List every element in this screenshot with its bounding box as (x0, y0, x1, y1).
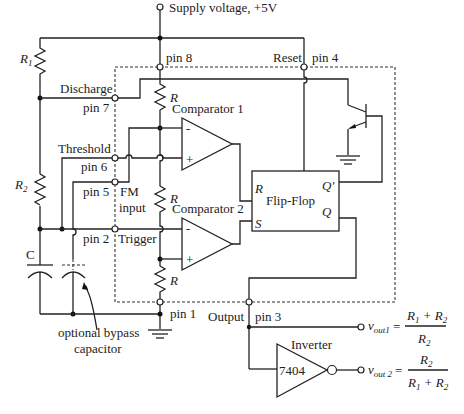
bypass-pointer (86, 286, 97, 330)
comp1-minus: - (186, 121, 190, 136)
svg-text:R1 + R2: R1 + R2 (407, 375, 449, 392)
vout1-equation: vout1 = R1 + R2 R2 (368, 308, 448, 348)
vout2-equation: vout 2 = R2 R1 + R2 (368, 352, 449, 392)
fm-label: FM (120, 184, 139, 199)
comp1-plus: + (186, 152, 193, 167)
comp2-plus: + (186, 252, 193, 267)
resistor-label: R (169, 273, 178, 288)
resistor-divider-chain (155, 70, 165, 299)
pin6-label: pin 6 (81, 159, 108, 174)
supply-label: Supply voltage, +5V (169, 0, 278, 15)
pin8-label: pin 8 (166, 50, 192, 65)
circuit-diagram: Supply voltage, +5V pin 8 Reset pin 4 R1… (0, 0, 464, 414)
reset-label: Reset (273, 50, 302, 65)
pin2-label: pin 2 (83, 231, 109, 246)
capacitor-label: C (26, 247, 35, 262)
inverter-bubble (328, 366, 337, 375)
comp2-minus: - (186, 221, 190, 236)
fm-input-label: input (119, 200, 146, 215)
output-label: Output (208, 309, 245, 324)
svg-text:vout 2: vout 2 (368, 362, 393, 379)
svg-text:R2: R2 (417, 331, 431, 348)
pin4-terminal (301, 64, 307, 70)
transistor-collector (348, 105, 366, 112)
comp2-to-s-wire (232, 221, 252, 244)
r2-label: R2 (14, 177, 28, 194)
svg-text:R1 + R2: R1 + R2 (406, 308, 448, 325)
flipflop-q: Q (322, 204, 332, 219)
vout1-terminal (358, 324, 364, 330)
pin7-terminal (112, 95, 118, 101)
svg-text:=: = (393, 319, 400, 334)
pin5-terminal (112, 179, 118, 185)
comp1-to-r-wire (232, 144, 252, 201)
reset-to-flipflop (304, 70, 307, 171)
pin3-label: pin 3 (255, 309, 281, 324)
comparator1-label: Comparator 1 (172, 101, 244, 116)
r1-label: R1 (19, 51, 32, 68)
svg-text:vout1: vout1 (368, 318, 390, 335)
junction (158, 36, 163, 41)
pin3-terminal (246, 299, 252, 305)
qbar-to-base-wire (339, 116, 382, 182)
q-to-output-wire (249, 218, 356, 299)
pin7-label: pin 7 (83, 100, 110, 115)
bypass-label-1: optional bypass (58, 325, 139, 340)
flipflop-r: R (254, 181, 263, 196)
pin8-terminal (157, 64, 163, 70)
pin1-terminal (157, 299, 163, 305)
vout2-terminal (358, 367, 364, 373)
discharge-label: Discharge (60, 81, 113, 96)
threshold-internal-wire (118, 155, 182, 158)
emitter-arrow-icon (348, 124, 356, 129)
pin4-label: pin 4 (312, 50, 339, 65)
threshold-label: Threshold (58, 141, 111, 156)
flipflop-s: S (255, 216, 262, 231)
pin1-label: pin 1 (170, 306, 196, 321)
comparator2-label: Comparator 2 (172, 201, 244, 216)
pin5-label: pin 5 (83, 184, 109, 199)
inverter-chip-label: 7404 (279, 363, 306, 378)
svg-text:=: = (395, 363, 402, 378)
supply-terminal (157, 4, 163, 10)
flipflop-qbar: Q' (322, 178, 334, 193)
svg-text:R2: R2 (419, 352, 433, 369)
pointer-arrow-icon (82, 282, 88, 290)
bypass-label-2: capacitor (74, 341, 122, 356)
pin6-terminal (112, 155, 118, 161)
flipflop-label: Flip-Flop (266, 193, 315, 208)
junction (158, 312, 163, 317)
fm-internal-wire (118, 128, 160, 182)
trigger-label: Trigger (118, 231, 157, 246)
inverter-label: Inverter (291, 337, 333, 352)
